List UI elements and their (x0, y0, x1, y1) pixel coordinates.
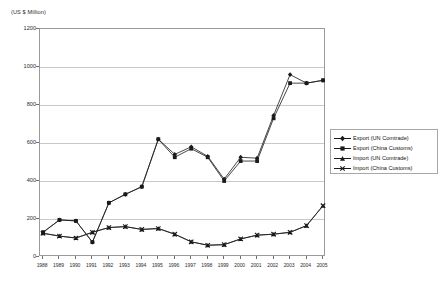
x-axis-tick-label: 1994 (135, 262, 146, 268)
y-axis-tick-mark (36, 66, 39, 67)
series-line (43, 75, 323, 243)
square-data-point (305, 81, 309, 85)
x-axis-tick-mark (141, 256, 142, 259)
y-axis-tick-mark (36, 256, 39, 257)
square-data-point (288, 81, 292, 85)
square-data-point (123, 192, 127, 196)
x-axis-tick-mark (240, 256, 241, 259)
square-data-point (222, 179, 226, 183)
square-data-point (156, 137, 160, 141)
square-data-point (255, 159, 259, 163)
x-axis-tick-label: 1999 (218, 262, 229, 268)
square-data-point (239, 159, 243, 163)
x-axis-tick-mark (322, 256, 323, 259)
y-axis-tick-label: 0 (2, 253, 36, 259)
diamond-marker-icon (334, 134, 351, 143)
square-data-point (321, 78, 325, 82)
y-axis-tick-label: 800 (2, 101, 36, 107)
series-line (43, 206, 323, 246)
legend-label: Export (China Customs) (353, 144, 413, 153)
y-axis-tick-mark (36, 218, 39, 219)
x-axis-tick-mark (157, 256, 158, 259)
x-axis-tick-label: 1993 (119, 262, 130, 268)
y-axis-tick-label: 200 (2, 215, 36, 221)
series-export-un-comtrade (41, 72, 325, 244)
x-axis-tick-label: 1990 (70, 262, 81, 268)
x-axis-tick-label: 1996 (168, 262, 179, 268)
x-axis-tick-mark (174, 256, 175, 259)
square-data-point (189, 147, 193, 151)
square-data-point (74, 219, 78, 223)
series-line (43, 206, 323, 246)
square-marker-icon (334, 144, 351, 153)
square-data-point (107, 201, 111, 205)
x-axis-tick-label: 1992 (103, 262, 114, 268)
legend-label: Import (China Customs) (353, 164, 412, 173)
square-data-point (173, 155, 177, 159)
y-axis-tick-label: 400 (2, 177, 36, 183)
x-axis-tick-mark (75, 256, 76, 259)
x-axis-tick-mark (289, 256, 290, 259)
legend: Export (UN Comtrade) Export (China Custo… (330, 129, 438, 174)
x-axis-tick-mark (306, 256, 307, 259)
square-data-point (140, 185, 144, 189)
x-axis-tick-label: 2001 (251, 262, 262, 268)
x-axis-tick-mark (108, 256, 109, 259)
x-axis-tick-mark (256, 256, 257, 259)
x-axis-tick-mark (91, 256, 92, 259)
x-axis-tick-mark (58, 256, 59, 259)
square-data-point (58, 218, 62, 222)
legend-item-import-un-comtrade[interactable]: Import (UN Comtrade) (334, 153, 434, 163)
x-axis-tick-mark (207, 256, 208, 259)
triangle-marker-icon (334, 154, 351, 163)
series-import-china-customs (41, 204, 325, 248)
y-axis-tick-label: 600 (2, 139, 36, 145)
x-axis-tick-label: 1991 (86, 262, 97, 268)
legend-label: Export (UN Comtrade) (353, 134, 409, 143)
x-axis-tick-mark (190, 256, 191, 259)
x-axis-tick-label: 2005 (317, 262, 328, 268)
series-export-china-customs (41, 78, 325, 244)
square-data-point (272, 116, 276, 120)
y-axis-tick-mark (36, 180, 39, 181)
legend-label: Import (UN Comtrade) (353, 154, 408, 163)
y-axis-tick-mark (36, 142, 39, 143)
x-axis-tick-label: 1998 (201, 262, 212, 268)
plot-area (39, 28, 325, 256)
y-axis-tick-label: 1200 (2, 25, 36, 31)
x-axis-tick-mark (42, 256, 43, 259)
cross-marker-icon (334, 164, 351, 173)
series-line (43, 80, 323, 242)
x-axis-tick-label: 1988 (37, 262, 48, 268)
legend-item-export-china-customs[interactable]: Export (China Customs) (334, 143, 434, 153)
square-data-point (91, 240, 95, 244)
x-axis-tick-mark (273, 256, 274, 259)
x-axis-tick-label: 2004 (300, 262, 311, 268)
legend-item-export-un-comtrade[interactable]: Export (UN Comtrade) (334, 133, 434, 143)
x-axis-tick-mark (124, 256, 125, 259)
y-axis-unit-label: (US $ Million) (11, 9, 46, 15)
legend-item-import-china-customs[interactable]: Import (China Customs) (334, 163, 434, 173)
x-axis-tick-label: 2003 (284, 262, 295, 268)
diamond-data-point (288, 72, 292, 77)
square-data-point (206, 155, 210, 159)
series-layer (40, 29, 326, 257)
x-axis-tick-label: 1989 (53, 262, 64, 268)
y-axis-tick-label: 1000 (2, 63, 36, 69)
x-axis-tick-mark (223, 256, 224, 259)
y-axis-tick-mark (36, 104, 39, 105)
x-axis-tick-label: 2000 (234, 262, 245, 268)
line-chart: (US $ Million) 020040060080010001200 198… (0, 0, 443, 283)
x-axis-tick-label: 1997 (185, 262, 196, 268)
series-import-un-comtrade (41, 203, 325, 247)
y-axis-tick-mark (36, 28, 39, 29)
x-axis-tick-label: 2002 (267, 262, 278, 268)
x-axis-tick-label: 1995 (152, 262, 163, 268)
